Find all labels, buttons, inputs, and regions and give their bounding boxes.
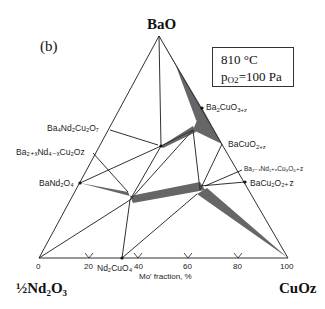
axis-tick-60: 60 [183,262,192,271]
conditions-box: 810 °C pO2=100 Pa [212,47,294,87]
panel-label: (b) [40,38,58,55]
phase-label-bacu2o2: BaCu₂O₂₊z [250,178,294,188]
axis-tick-20: 20 [84,262,93,271]
vertex-right-label: CuOz [279,280,317,297]
phase-label-ba2cuo3: Ba2CuO3+z [206,102,247,113]
temperature: 810 °C [221,51,293,68]
vertex-left-label: ½Nd₂O₃ [16,280,67,297]
phase-label-nd2cuo4: Nd₂CuO₄ [97,263,132,273]
phase-label-ba2nd1cu3o6: Ba₂₋ₓNd₁₊ₓCu₃O₆₊z [244,165,303,173]
axis-tick-0: 0 [36,262,40,271]
axis-label: Mo' fraction, % [139,272,192,281]
phase-label-ba2nd4cu2o: Ba₂₊ₓNd₄₋ₓCu₂Oz [16,147,85,157]
phase-label-bacuo2: BaCuO2+z [228,139,266,150]
pressure: pO2=100 Pa [221,68,293,89]
phase-label-ba4nd2cu2o7: Ba₄Nd₂Cu₂O₇ [47,123,99,133]
phase-label-band2o4: BaNd₂O₄ [39,178,74,188]
axis-tick-80: 80 [233,262,242,271]
axis-tick-40: 40 [134,262,143,271]
vertex-top-label: BaO [147,16,176,33]
axis-tick-100: 100 [280,262,293,271]
